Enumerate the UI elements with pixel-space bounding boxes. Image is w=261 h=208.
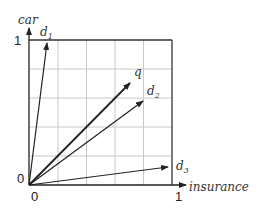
x-tick-0: 0	[31, 189, 38, 204]
vectors	[29, 43, 168, 185]
vector-space-diagram: car insurance 1 0 0 1 d1 q d2 d3	[0, 0, 261, 208]
label-d2: d2	[147, 84, 160, 100]
y-axis-label: car	[18, 13, 39, 27]
x-axis-label: insurance	[189, 180, 249, 194]
label-d1: d1	[40, 25, 53, 41]
vector-d1	[29, 43, 47, 185]
label-d3: d3	[176, 159, 189, 175]
label-q: q	[134, 65, 142, 79]
y-tick-0: 0	[17, 171, 24, 186]
y-tick-1: 1	[14, 33, 21, 48]
x-tick-1: 1	[175, 189, 182, 204]
